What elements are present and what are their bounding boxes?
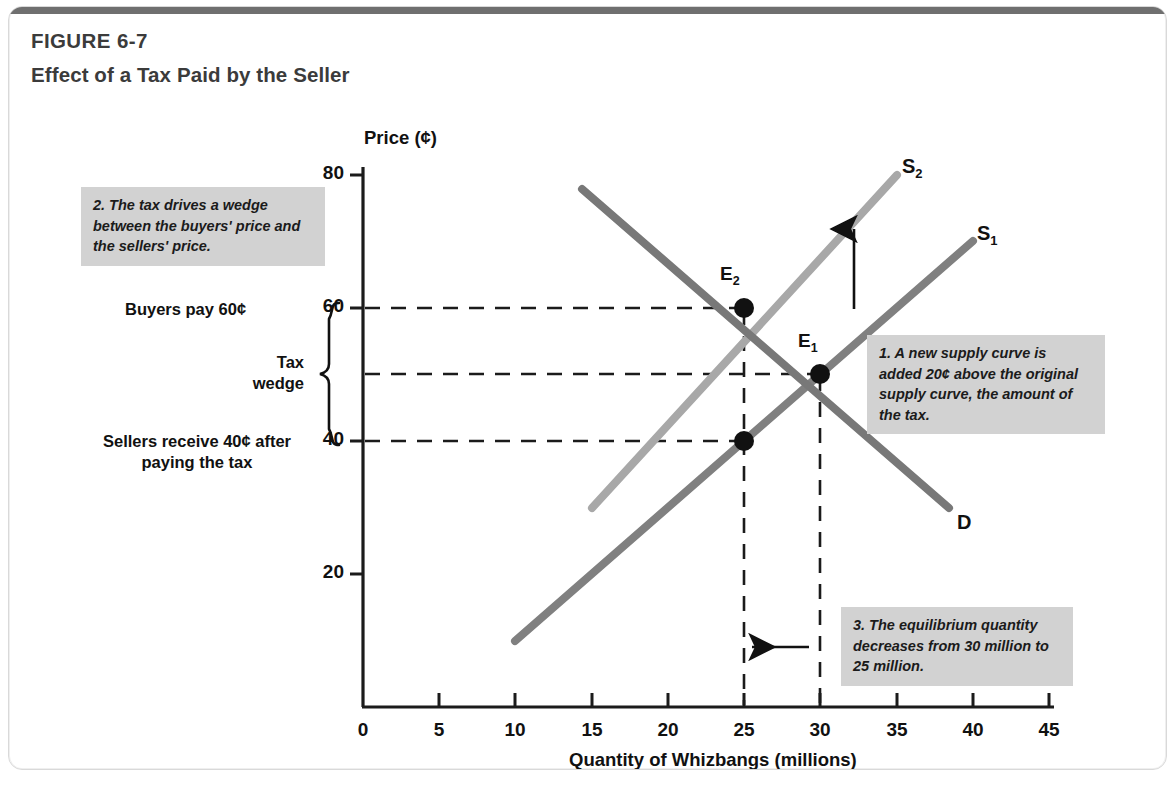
y-tick-label-80: 80	[304, 162, 344, 184]
point-label-e2-sub: 2	[733, 274, 740, 288]
x-tick-label-5: 5	[419, 719, 459, 741]
buyers-pay-label: Buyers pay 60¢	[125, 299, 246, 320]
y-tick-label-20: 20	[304, 561, 344, 583]
curve-label-s2-text: S	[902, 155, 915, 177]
curve-label-s1: S1	[977, 222, 998, 248]
point-label-e2-text: E	[720, 263, 733, 284]
x-tick-label-35: 35	[877, 719, 917, 741]
point-label-e1-text: E	[798, 330, 811, 351]
curve-label-s2-sub: 2	[915, 166, 922, 181]
callout-box-3: 3. The equilibrium quantity decreases fr…	[841, 607, 1073, 686]
x-tick-label-30: 30	[800, 719, 840, 741]
point-label-e1: E1	[798, 330, 818, 355]
tax-wedge-label-line1: Tax	[209, 352, 304, 373]
curve-label-d: D	[957, 511, 971, 534]
tax-wedge-label: Tax wedge	[209, 352, 304, 393]
point-e2	[734, 298, 754, 318]
tax-wedge-label-line2: wedge	[209, 373, 304, 394]
figure-card: FIGURE 6-7 Effect of a Tax Paid by the S…	[8, 6, 1167, 770]
point-label-e2: E2	[720, 263, 740, 288]
point-label-e1-sub: 1	[811, 341, 818, 355]
x-tick-label-40: 40	[953, 719, 993, 741]
curve-label-s1-sub: 1	[990, 233, 997, 248]
x-tick-label-15: 15	[572, 719, 612, 741]
callout-box-2: 2. The tax drives a wedge between the bu…	[81, 187, 325, 266]
x-tick-label-0: 0	[343, 719, 383, 741]
y-axis-title: Price (¢)	[364, 127, 437, 149]
y-tick-label-40: 40	[304, 428, 344, 450]
curve-label-s1-text: S	[977, 222, 990, 244]
curve-label-s2: S2	[902, 155, 923, 181]
x-tick-label-10: 10	[495, 719, 535, 741]
x-tick-label-25: 25	[724, 719, 764, 741]
callout-box-1: 1. A new supply curve is added 20¢ above…	[867, 335, 1105, 434]
sellers-receive-line1: Sellers receive 40¢ after	[87, 431, 307, 452]
point-sellers-receive	[734, 431, 754, 451]
sellers-receive-line2: paying the tax	[87, 452, 307, 473]
point-e1	[810, 364, 830, 384]
sellers-receive-label: Sellers receive 40¢ after paying the tax	[87, 431, 307, 474]
x-axis-title: Quantity of Whizbangs (millions)	[569, 749, 857, 770]
x-tick-label-20: 20	[648, 719, 688, 741]
tax-wedge-brace	[320, 303, 339, 445]
y-tick-label-60: 60	[304, 295, 344, 317]
x-tick-label-45: 45	[1029, 719, 1069, 741]
supply-curve-s2	[592, 175, 897, 508]
